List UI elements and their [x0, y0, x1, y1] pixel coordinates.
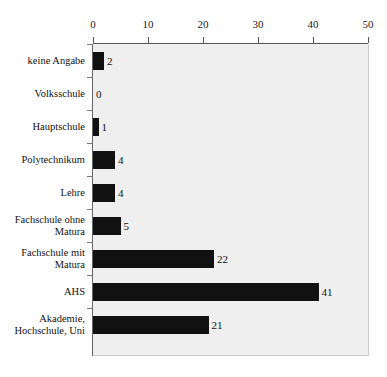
y-axis-tick-mark — [87, 242, 93, 243]
category-label-line1: keine Angabe — [28, 55, 85, 66]
y-axis-tick-mark — [87, 209, 93, 210]
bar — [93, 283, 319, 301]
bar-value-label: 5 — [124, 220, 130, 232]
bar — [93, 184, 115, 202]
x-axis-tick-label: 0 — [90, 18, 96, 30]
y-axis-tick-mark — [87, 308, 93, 309]
bar — [93, 52, 104, 70]
bar-row: Hauptschule1 — [0, 110, 387, 143]
bar-row: AHS41 — [0, 275, 387, 308]
y-axis-tick-mark — [87, 110, 93, 111]
bar-row: Volksschule0 — [0, 77, 387, 110]
bar — [93, 118, 99, 136]
y-axis-tick-mark — [87, 143, 93, 144]
bar-row: keine Angabe2 — [0, 44, 387, 77]
category-label: Lehre — [0, 187, 85, 199]
y-axis-tick-mark — [87, 275, 93, 276]
category-label: keine Angabe — [0, 55, 85, 67]
category-label-line2: Hochschule, Uni — [0, 325, 85, 337]
category-label: Hauptschule — [0, 121, 85, 133]
category-label: Fachschule mitMatura — [0, 247, 85, 271]
category-label-line1: Akademie, — [39, 313, 85, 324]
y-axis-tick-mark — [87, 77, 93, 78]
bar-row: Lehre4 — [0, 176, 387, 209]
x-axis-tick-label: 40 — [308, 18, 319, 30]
y-axis-tick-mark — [87, 176, 93, 177]
bar-row: Fachschule ohneMatura5 — [0, 209, 387, 242]
bar-row: Akademie,Hochschule, Uni21 — [0, 308, 387, 341]
bar — [93, 316, 209, 334]
x-axis-tick-label: 10 — [143, 18, 154, 30]
bar-value-label: 4 — [118, 154, 124, 166]
bar-value-label: 1 — [102, 121, 108, 133]
bar-value-label: 4 — [118, 187, 124, 199]
bar — [93, 217, 121, 235]
category-label-line1: Fachschule ohne — [15, 214, 85, 225]
category-label-line1: Polytechnikum — [21, 154, 85, 165]
x-axis-tick-label: 50 — [363, 18, 374, 30]
bar-value-label: 22 — [217, 253, 228, 265]
category-label: Akademie,Hochschule, Uni — [0, 313, 85, 337]
bar-value-label: 0 — [96, 88, 102, 100]
bar-value-label: 41 — [322, 286, 333, 298]
category-label-line1: Hauptschule — [33, 121, 86, 132]
bar-value-label: 2 — [107, 55, 113, 67]
bar-chart: 01020304050 keine Angabe2Volksschule0Hau… — [0, 0, 387, 377]
category-label-line1: Fachschule mit — [21, 247, 85, 258]
bar — [93, 151, 115, 169]
category-label-line1: AHS — [64, 286, 85, 297]
bar-row: Fachschule mitMatura22 — [0, 242, 387, 275]
x-axis-tick-label: 30 — [253, 18, 264, 30]
bar-row: Polytechnikum4 — [0, 143, 387, 176]
category-label: Fachschule ohneMatura — [0, 214, 85, 238]
category-label: AHS — [0, 286, 85, 298]
bar-value-label: 21 — [212, 319, 223, 331]
category-label-line1: Lehre — [61, 187, 85, 198]
category-label-line2: Matura — [0, 226, 85, 238]
category-label-line1: Volksschule — [34, 88, 85, 99]
category-label: Volksschule — [0, 88, 85, 100]
bar — [93, 250, 214, 268]
x-axis-tick-mark — [368, 37, 369, 43]
y-axis-tick-mark — [87, 44, 93, 45]
x-axis-tick-label: 20 — [198, 18, 209, 30]
category-label: Polytechnikum — [0, 154, 85, 166]
category-label-line2: Matura — [0, 259, 85, 271]
